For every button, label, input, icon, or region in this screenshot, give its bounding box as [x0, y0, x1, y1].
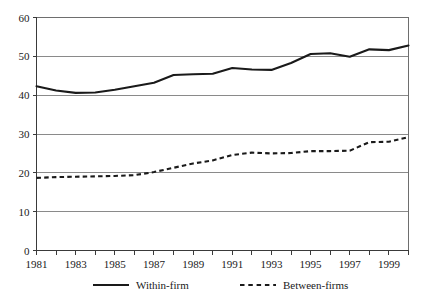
legend: Within-firmBetween-firms	[93, 279, 348, 291]
y-gridlines	[33, 18, 409, 251]
x-axis-labels: 1981198319851987198919911993199519971999	[26, 251, 409, 270]
y-tick-label-60: 60	[19, 12, 31, 24]
x-tick-label-1993: 1993	[260, 258, 283, 270]
x-tick-label-1997: 1997	[339, 258, 362, 270]
x-tick-label-1991: 1991	[221, 258, 243, 270]
x-tick-label-1989: 1989	[182, 258, 205, 270]
y-tick-label-30: 30	[19, 128, 31, 140]
x-tick-label-1999: 1999	[378, 258, 401, 270]
y-tick-label-10: 10	[19, 206, 31, 218]
y-tick-label-20: 20	[19, 167, 31, 179]
line-chart: 0102030405060198119831985198719891991199…	[0, 0, 423, 304]
series-group	[37, 45, 409, 177]
y-tick-label-50: 50	[19, 50, 31, 62]
x-tick-label-1987: 1987	[143, 258, 166, 270]
y-tick-label-0: 0	[24, 245, 30, 257]
series-line-between-firms	[37, 137, 409, 178]
x-tick-label-1995: 1995	[300, 258, 323, 270]
series-line-within-firm	[37, 45, 409, 92]
x-tick-label-1985: 1985	[104, 258, 127, 270]
y-tick-label-40: 40	[19, 89, 31, 101]
x-tick-label-1983: 1983	[65, 258, 88, 270]
y-axis-labels: 0102030405060	[19, 12, 31, 257]
chart-canvas: 0102030405060198119831985198719891991199…	[0, 0, 423, 304]
legend-label-between-firms: Between-firms	[283, 279, 348, 291]
x-tick-label-1981: 1981	[26, 258, 48, 270]
legend-label-within-firm: Within-firm	[136, 279, 189, 291]
